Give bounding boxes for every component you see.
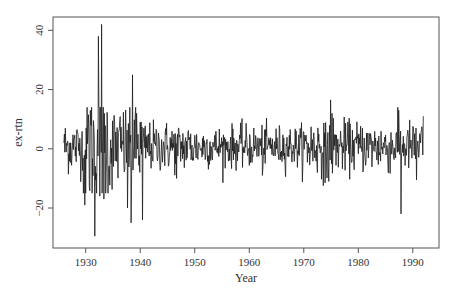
x-tick-label: 1930: [75, 256, 98, 268]
time-series-chart: 1930194019501960197019801990 −2002040 Ye…: [0, 0, 459, 297]
ex-rtn-series-line: [64, 24, 423, 236]
x-tick-label: 1990: [402, 256, 425, 268]
x-axis-title: Year: [235, 271, 257, 285]
y-tick-label: 40: [33, 24, 45, 36]
x-tick-label: 1980: [347, 256, 370, 268]
x-axis: 1930194019501960197019801990: [75, 248, 425, 268]
y-tick-label: 0: [33, 146, 45, 152]
x-tick-label: 1960: [238, 256, 261, 268]
y-axis: −2002040: [33, 24, 53, 216]
plot-area: [64, 24, 423, 236]
x-tick-label: 1940: [129, 256, 152, 268]
y-axis-title: ex-rtn: [11, 118, 25, 147]
y-tick-label: 20: [33, 84, 45, 96]
x-tick-label: 1970: [293, 256, 316, 268]
x-tick-label: 1950: [184, 256, 207, 268]
y-tick-label: −20: [33, 199, 45, 217]
